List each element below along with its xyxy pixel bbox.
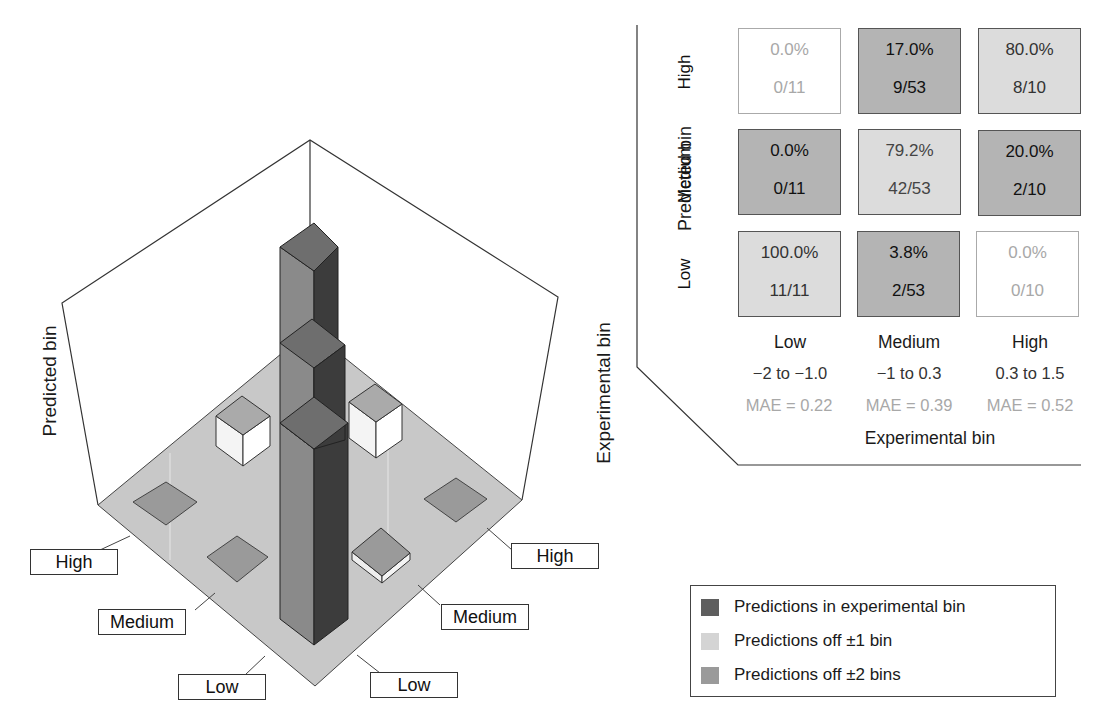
cell-count: 0/11 — [739, 78, 840, 98]
cell-count: 2/53 — [858, 281, 959, 301]
plot3d-tick-right-medium: Medium — [441, 604, 529, 630]
plot3d-tick-right-high: High — [511, 543, 599, 569]
matrix-cell-high-high: 80.0% 8/10 — [978, 28, 1081, 114]
cell-count: 9/53 — [859, 78, 960, 98]
plot3d-tick-left-low: Low — [178, 674, 266, 700]
matrix-col-range-low: −2 to −1.0 — [730, 364, 850, 383]
cell-pct: 0.0% — [739, 40, 840, 60]
plot3d-tick-right-low: Low — [370, 672, 458, 698]
matrix-col-range-high: 0.3 to 1.5 — [970, 364, 1090, 383]
cell-pct: 80.0% — [979, 40, 1080, 60]
matrix-col-range-medium: −1 to 0.3 — [849, 364, 969, 383]
matrix-cell-medium-high: 20.0% 2/10 — [978, 130, 1081, 216]
cell-pct: 0.0% — [739, 141, 840, 161]
matrix-cell-medium-medium: 79.2% 42/53 — [858, 129, 961, 215]
legend-label: Predictions off ±1 bin — [734, 631, 892, 651]
matrix-col-label-low: Low — [730, 332, 850, 353]
legend-label: Predictions in experimental bin — [734, 597, 966, 617]
plot3d-y-axis-title: Predicted bin — [39, 306, 61, 456]
matrix-cell-high-low: 0.0% 0/11 — [738, 28, 841, 114]
cell-pct: 17.0% — [859, 40, 960, 60]
matrix-col-mae-medium: MAE = 0.39 — [849, 396, 969, 415]
cell-pct: 79.2% — [859, 141, 960, 161]
matrix-x-axis-title: Experimental bin — [800, 428, 1060, 449]
legend-swatch-light — [701, 633, 719, 650]
matrix-row-label-low: Low — [675, 229, 695, 319]
matrix-col-label-medium: Medium — [849, 332, 969, 353]
matrix-cell-medium-low: 0.0% 0/11 — [738, 129, 841, 215]
cell-count: 42/53 — [859, 179, 960, 199]
cell-count: 0/10 — [977, 281, 1078, 301]
cell-pct: 20.0% — [979, 142, 1080, 162]
legend: Predictions in experimental bin Predicti… — [690, 585, 1056, 697]
matrix-cell-low-high: 0.0% 0/10 — [976, 231, 1079, 317]
matrix-cell-low-low: 100.0% 11/11 — [738, 231, 841, 317]
bar-in-bin-stack — [280, 223, 348, 645]
matrix-col-label-high: High — [970, 332, 1090, 353]
cell-count: 11/11 — [739, 281, 840, 301]
legend-label: Predictions off ±2 bins — [734, 665, 901, 685]
matrix-col-mae-high: MAE = 0.52 — [970, 396, 1090, 415]
legend-swatch-medium — [701, 667, 719, 684]
legend-item-in-bin: Predictions in experimental bin — [701, 596, 966, 618]
cell-pct: 3.8% — [858, 243, 959, 263]
matrix-cell-high-medium: 17.0% 9/53 — [858, 28, 961, 114]
legend-swatch-dark — [701, 599, 719, 616]
plot3d-tick-left-high: High — [30, 549, 118, 575]
cell-pct: 0.0% — [977, 243, 1078, 263]
cell-count: 2/10 — [979, 180, 1080, 200]
matrix-col-mae-low: MAE = 0.22 — [729, 396, 849, 415]
cell-count: 0/11 — [739, 179, 840, 199]
cell-count: 8/10 — [979, 78, 1080, 98]
plot3d-x-axis-title: Experimental bin — [593, 313, 615, 473]
matrix-row-label-medium: Medium — [675, 128, 695, 218]
plot3d-tick-left-medium: Medium — [98, 609, 186, 635]
matrix-cell-low-medium: 3.8% 2/53 — [857, 231, 960, 317]
legend-item-off-1: Predictions off ±1 bin — [701, 630, 892, 652]
legend-item-off-2: Predictions off ±2 bins — [701, 664, 901, 686]
matrix-row-label-high: High — [675, 27, 695, 117]
cell-pct: 100.0% — [739, 243, 840, 263]
